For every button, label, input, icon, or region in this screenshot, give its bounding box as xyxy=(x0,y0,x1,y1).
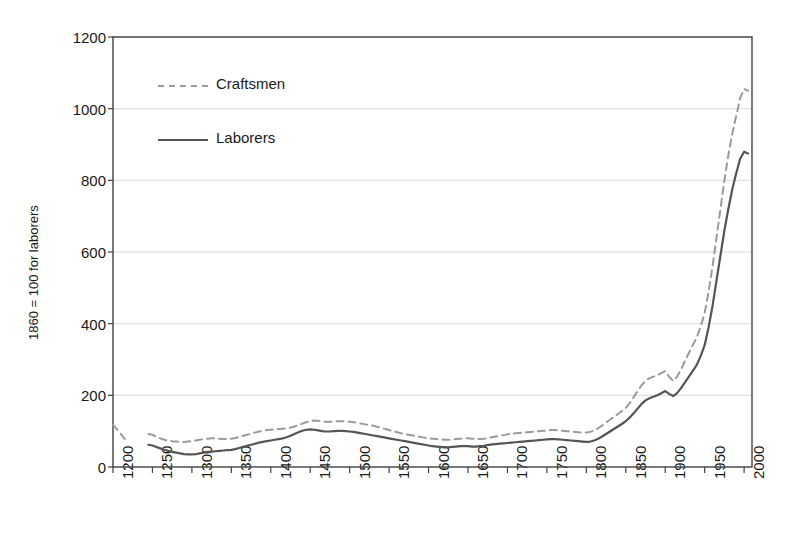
legend-swatch-laborers xyxy=(158,139,208,141)
legend-swatch-craftsmen xyxy=(158,85,208,87)
legend-label: Laborers xyxy=(216,129,275,146)
plot-area xyxy=(0,0,791,543)
legend-label: Craftsmen xyxy=(216,75,285,92)
series-line-craftsmen xyxy=(113,425,125,439)
series-line-laborers xyxy=(149,152,749,455)
chart-container: 1860 = 100 for laborers 0200400600800100… xyxy=(0,0,791,543)
